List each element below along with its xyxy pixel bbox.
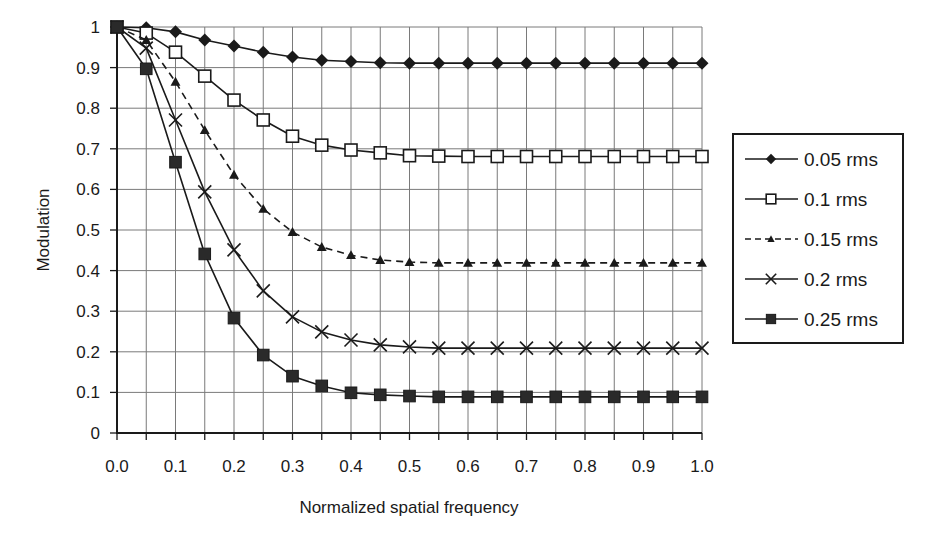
diamond-marker [315,54,328,67]
x-axis-title: Normalized spatial frequency [299,498,519,517]
legend-label: 0.05 rms [804,149,878,170]
open-square-marker [550,151,562,163]
legend-label: 0.1 rms [804,189,867,210]
x-tick-label: 0.9 [632,457,656,476]
filled-square-marker [608,391,620,403]
legend: 0.05 rms0.1 rms0.15 rms0.2 rms0.25 rms [733,134,903,343]
open-square-marker [462,151,474,163]
filled-square-marker [696,391,708,403]
filled-square-marker [345,387,357,399]
filled-square-marker [228,312,240,324]
filled-square-marker [287,370,299,382]
x-tick-label: 1.0 [690,457,714,476]
x-tick-label: 0.5 [398,457,422,476]
filled-square-marker [433,391,445,403]
filled-square-marker [667,391,679,403]
open-square-marker [170,46,182,58]
filled-square-marker [257,349,269,361]
open-square-marker [579,151,591,163]
open-square-marker [316,139,328,151]
filled-square-marker [550,391,562,403]
y-tick-label: 0.3 [76,302,100,321]
open-square-marker [766,194,776,204]
open-square-marker [345,144,357,156]
open-square-marker [491,151,503,163]
diamond-marker [228,40,241,53]
filled-square-marker [140,63,152,75]
y-tick-label: 0.9 [76,59,100,78]
triangle-marker [346,250,356,259]
legend-label: 0.2 rms [804,269,867,290]
triangle-marker [229,170,239,179]
diamond-marker [257,46,270,59]
open-square-marker [608,151,620,163]
diamond-marker [198,33,211,46]
x-tick-label: 0.0 [105,457,129,476]
filled-square-marker [521,391,533,403]
diamond-marker [286,51,299,64]
y-tick-label: 0.2 [76,343,100,362]
filled-square-marker [111,21,123,33]
y-tick-label: 1 [91,18,100,37]
triangle-marker [317,242,327,251]
x-tick-label: 0.1 [164,457,188,476]
open-square-marker [521,151,533,163]
y-tick-label: 0.8 [76,99,100,118]
open-square-marker [638,151,650,163]
legend-label: 0.15 rms [804,229,878,250]
y-axis-title: Modulation [34,188,53,271]
x-tick-label: 0.3 [281,457,305,476]
y-tick-label: 0.5 [76,221,100,240]
x-tick-label: 0.6 [456,457,480,476]
filled-square-marker [491,391,503,403]
triangle-marker [200,125,210,134]
x-tick-label: 0.4 [339,457,363,476]
open-square-marker [199,70,211,82]
open-square-marker [228,94,240,106]
open-square-marker [404,150,416,162]
filled-square-marker [404,390,416,402]
filled-square-marker [462,391,474,403]
open-square-marker [287,130,299,142]
chart-canvas: 0.00.10.20.30.40.50.60.70.80.91.000.10.2… [0,0,928,552]
filled-square-marker [199,248,211,260]
open-square-marker [374,147,386,159]
y-tick-label: 0.7 [76,140,100,159]
filled-square-marker [579,391,591,403]
y-tick-label: 0.4 [76,262,100,281]
y-tick-label: 0.6 [76,180,100,199]
tick-labels: 0.00.10.20.30.40.50.60.70.80.91.000.10.2… [76,18,713,476]
diamond-marker [345,55,358,68]
open-square-marker [257,114,269,126]
open-square-marker [667,151,679,163]
filled-square-marker [374,389,386,401]
y-tick-label: 0 [91,424,100,443]
x-tick-label: 0.7 [515,457,539,476]
filled-square-marker [766,314,775,323]
grid-lines [117,27,702,433]
x-tick-label: 0.8 [573,457,597,476]
filled-square-marker [170,156,182,168]
y-tick-label: 0.1 [76,383,100,402]
filled-square-marker [638,391,650,403]
open-square-marker [433,150,445,162]
filled-square-marker [316,380,328,392]
modulation-chart: 0.00.10.20.30.40.50.60.70.80.91.000.10.2… [0,0,928,552]
x-tick-label: 0.2 [222,457,246,476]
legend-label: 0.25 rms [804,309,878,330]
open-square-marker [696,151,708,163]
